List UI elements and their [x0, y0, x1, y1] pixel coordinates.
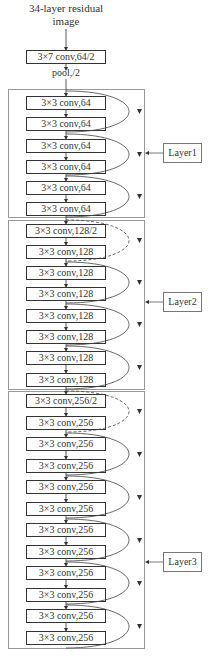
layer3-label: Layer3	[163, 552, 202, 572]
stem-conv-block: 3×7 conv,64/2	[26, 50, 106, 64]
layer1-label: Layer1	[163, 143, 202, 163]
layer1-block: 3×3 conv,64	[26, 181, 106, 195]
title-line-1: 34-layer residual	[20, 2, 112, 15]
diagram-title: 34-layer residual image	[20, 2, 112, 28]
layer2-block: 3×3 conv,128	[26, 266, 106, 280]
layer2-block: 3×3 conv,128	[26, 309, 106, 323]
label-pointers	[147, 153, 163, 562]
layer1-block: 3×3 conv,64	[26, 202, 106, 216]
layer2-block: 3×3 conv,128	[26, 373, 106, 387]
layer1-block: 3×3 conv,64	[26, 139, 106, 153]
layer3-block: 3×3 conv,256	[26, 566, 106, 580]
layer3-block: 3×3 conv,256	[26, 480, 106, 494]
layer3-block: 3×3 conv,256	[26, 416, 106, 430]
layer3-block: 3×3 conv,256	[26, 459, 106, 473]
layer3-block: 3×3 conv,256	[26, 502, 106, 516]
layer3-block: 3×3 conv,256/2	[26, 394, 106, 408]
layer2-block: 3×3 conv,128	[26, 287, 106, 301]
layer2-block: 3×3 conv,128	[26, 245, 106, 259]
layer3-block: 3×3 conv,256	[26, 545, 106, 559]
layer2-block: 3×3 conv,128	[26, 330, 106, 344]
layer3-block: 3×3 conv,256	[26, 609, 106, 623]
pool-label: pool,/2	[40, 67, 92, 79]
layer1-block: 3×3 conv,64	[26, 160, 106, 174]
title-line-2: image	[20, 15, 112, 28]
layer2-label: Layer2	[163, 292, 202, 312]
layer3-block: 3×3 conv,256	[26, 588, 106, 602]
layer1-block: 3×3 conv,64	[26, 117, 106, 131]
layer2-block: 3×3 conv,128/2	[26, 224, 106, 238]
layer2-block: 3×3 conv,128	[26, 351, 106, 365]
layer3-block: 3×3 conv,256	[26, 523, 106, 537]
layer3-block: 3×3 conv,256	[26, 631, 106, 645]
layer3-block: 3×3 conv,256	[26, 437, 106, 451]
layer1-block: 3×3 conv,64	[26, 96, 106, 110]
